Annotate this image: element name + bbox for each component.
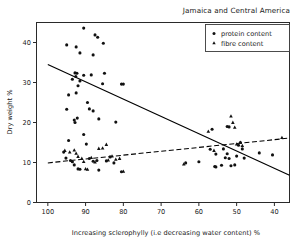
data-point-protein <box>224 156 227 159</box>
chart-title: Jamaica and Central America <box>182 6 290 15</box>
data-point-protein <box>211 128 214 131</box>
data-point-protein <box>90 73 93 76</box>
data-point-protein <box>233 163 236 166</box>
data-point-fibre <box>101 146 105 149</box>
data-point-fibre <box>118 157 122 160</box>
legend-marker-dot-icon <box>213 32 216 35</box>
data-point-fibre <box>68 150 72 153</box>
data-point-protein <box>82 74 85 77</box>
data-point-protein <box>222 147 225 150</box>
data-point-fibre <box>212 149 216 152</box>
x-axis-ticks: 100908070605040 <box>42 203 279 216</box>
data-point-protein <box>75 91 78 94</box>
y-axis-ticks: 010203040 <box>23 39 37 207</box>
data-point-fibre <box>105 143 109 146</box>
data-point-protein <box>67 93 70 96</box>
data-point-fibre <box>74 151 78 154</box>
data-point-protein <box>86 101 89 104</box>
y-tick-label: 40 <box>23 39 31 47</box>
data-point-protein <box>65 108 68 111</box>
data-point-protein <box>243 157 246 160</box>
y-axis-label: Dry weight % <box>6 90 14 135</box>
data-point-fibre <box>114 157 118 160</box>
x-tick-label: 50 <box>232 208 240 216</box>
data-point-protein <box>112 161 115 164</box>
x-tick-label: 80 <box>119 208 127 216</box>
data-point-protein <box>235 155 238 158</box>
data-point-protein <box>220 164 223 167</box>
data-point-protein <box>114 121 117 124</box>
x-tick-label: 100 <box>42 208 55 216</box>
data-point-protein <box>228 157 231 160</box>
data-point-protein <box>209 148 212 151</box>
data-point-protein <box>76 84 79 87</box>
data-point-protein <box>78 51 81 54</box>
trendline-protein <box>48 65 290 176</box>
x-tick-label: 90 <box>81 208 89 216</box>
data-point-protein <box>78 79 81 82</box>
data-point-protein <box>64 157 67 160</box>
data-point-protein <box>103 72 106 75</box>
data-point-protein <box>214 165 217 168</box>
data-point-fibre <box>229 114 233 117</box>
data-point-protein <box>71 78 74 81</box>
data-point-protein <box>122 83 125 86</box>
data-point-protein <box>74 75 77 78</box>
y-tick-label: 20 <box>23 119 31 127</box>
data-point-protein <box>85 143 88 146</box>
data-point-protein <box>67 139 70 142</box>
data-point-protein <box>95 159 98 162</box>
data-point-protein <box>88 107 91 110</box>
data-point-protein <box>75 72 78 75</box>
data-point-protein <box>96 36 99 39</box>
data-point-protein <box>226 152 229 155</box>
data-point-fibre <box>97 147 101 150</box>
data-point-protein <box>92 109 95 112</box>
data-point-protein <box>76 117 79 120</box>
data-point-protein <box>229 164 232 167</box>
y-tick-label: 0 <box>27 199 31 207</box>
data-point-protein <box>71 160 74 163</box>
legend-label-protein: protein content <box>221 30 272 38</box>
data-point-fibre <box>233 125 237 128</box>
data-point-fibre <box>207 129 211 132</box>
data-point-protein <box>73 163 76 166</box>
y-tick-label: 30 <box>23 79 31 87</box>
data-point-protein <box>73 121 76 124</box>
x-tick-label: 70 <box>157 208 165 216</box>
data-point-fibre <box>240 144 244 147</box>
data-point-protein <box>75 45 78 48</box>
data-point-protein <box>65 43 68 46</box>
data-point-protein <box>228 125 231 128</box>
data-point-protein <box>214 153 217 156</box>
data-point-protein <box>258 151 261 154</box>
data-point-protein <box>92 53 95 56</box>
data-point-protein <box>101 82 104 85</box>
data-point-fibre <box>280 136 284 139</box>
data-point-fibre <box>80 157 84 160</box>
chart-legend: protein content fibre content <box>206 25 290 52</box>
data-point-fibre <box>63 149 67 152</box>
scatter-plot-svg: Jamaica and Central America 100908070605… <box>0 0 300 242</box>
data-point-protein <box>97 169 100 172</box>
series-fibre-points <box>63 114 284 173</box>
x-tick-label: 40 <box>270 208 278 216</box>
data-point-protein <box>241 147 244 150</box>
data-point-protein <box>93 33 96 36</box>
data-point-protein <box>82 27 85 30</box>
data-point-protein <box>197 160 200 163</box>
data-point-fibre <box>76 155 80 158</box>
trendlines-group <box>48 65 290 176</box>
data-point-protein <box>102 42 105 45</box>
data-point-fibre <box>72 148 76 151</box>
data-point-fibre <box>82 160 86 163</box>
x-axis-label: Increasing sclerophylly (i.e decreasing … <box>72 229 260 237</box>
data-point-protein <box>82 133 85 136</box>
chart-figure: Jamaica and Central America 100908070605… <box>0 0 300 242</box>
data-point-protein <box>97 117 100 120</box>
x-tick-label: 60 <box>195 208 203 216</box>
data-point-fibre <box>231 121 235 124</box>
y-tick-label: 10 <box>23 159 31 167</box>
data-point-protein <box>78 168 81 171</box>
data-point-protein <box>271 153 274 156</box>
